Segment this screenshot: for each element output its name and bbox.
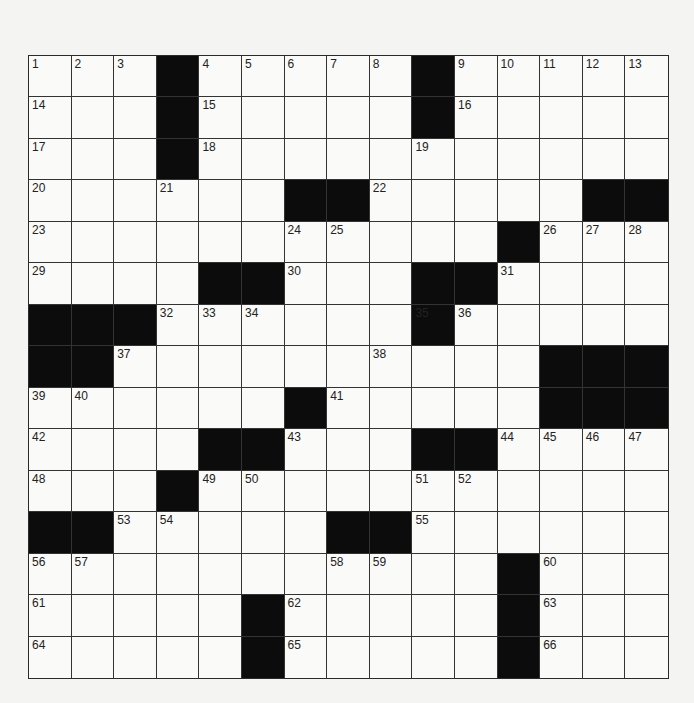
grid-cell[interactable]: 21 (157, 180, 200, 221)
grid-cell[interactable]: 52 (455, 471, 498, 512)
grid-cell[interactable] (72, 429, 115, 470)
grid-cell[interactable] (114, 471, 157, 512)
grid-cell[interactable] (455, 637, 498, 678)
grid-cell[interactable]: 24 (285, 222, 328, 263)
grid-cell[interactable]: 11 (540, 56, 583, 97)
grid-cell[interactable] (114, 429, 157, 470)
grid-cell[interactable] (199, 346, 242, 387)
grid-cell[interactable] (455, 512, 498, 553)
grid-cell[interactable] (285, 346, 328, 387)
grid-cell[interactable]: 30 (285, 263, 328, 304)
grid-cell[interactable] (285, 97, 328, 138)
grid-cell[interactable] (412, 222, 455, 263)
grid-cell[interactable] (242, 388, 285, 429)
grid-cell[interactable] (370, 637, 413, 678)
grid-cell[interactable] (72, 222, 115, 263)
grid-cell[interactable]: 19 (412, 139, 455, 180)
grid-cell[interactable]: 31 (498, 263, 541, 304)
grid-cell[interactable] (370, 595, 413, 636)
grid-cell[interactable]: 55 (412, 512, 455, 553)
grid-cell[interactable] (455, 180, 498, 221)
grid-cell[interactable]: 66 (540, 637, 583, 678)
grid-cell[interactable]: 39 (29, 388, 72, 429)
grid-cell[interactable] (114, 222, 157, 263)
grid-cell[interactable] (157, 263, 200, 304)
grid-cell[interactable] (242, 97, 285, 138)
grid-cell[interactable] (157, 554, 200, 595)
grid-cell[interactable]: 5 (242, 56, 285, 97)
grid-cell[interactable] (242, 554, 285, 595)
grid-cell[interactable] (72, 139, 115, 180)
grid-cell[interactable] (583, 595, 626, 636)
grid-cell[interactable] (625, 595, 668, 636)
grid-cell[interactable] (625, 263, 668, 304)
grid-cell[interactable]: 23 (29, 222, 72, 263)
grid-cell[interactable] (498, 388, 541, 429)
grid-cell[interactable] (455, 139, 498, 180)
grid-cell[interactable] (199, 637, 242, 678)
grid-cell[interactable] (327, 263, 370, 304)
grid-cell[interactable] (540, 97, 583, 138)
grid-cell[interactable] (625, 637, 668, 678)
grid-cell[interactable] (157, 346, 200, 387)
grid-cell[interactable]: 9 (455, 56, 498, 97)
grid-cell[interactable] (412, 595, 455, 636)
grid-cell[interactable] (498, 97, 541, 138)
grid-cell[interactable]: 25 (327, 222, 370, 263)
grid-cell[interactable]: 46 (583, 429, 626, 470)
grid-cell[interactable] (72, 97, 115, 138)
grid-cell[interactable] (370, 263, 413, 304)
grid-cell[interactable] (583, 139, 626, 180)
grid-cell[interactable] (114, 637, 157, 678)
grid-cell[interactable]: 36 (455, 305, 498, 346)
grid-cell[interactable]: 57 (72, 554, 115, 595)
grid-cell[interactable]: 6 (285, 56, 328, 97)
grid-cell[interactable] (583, 471, 626, 512)
grid-cell[interactable] (114, 388, 157, 429)
grid-cell[interactable] (625, 97, 668, 138)
grid-cell[interactable] (540, 512, 583, 553)
grid-cell[interactable] (540, 471, 583, 512)
grid-cell[interactable]: 22 (370, 180, 413, 221)
grid-cell[interactable]: 7 (327, 56, 370, 97)
grid-cell[interactable] (157, 388, 200, 429)
grid-cell[interactable]: 43 (285, 429, 328, 470)
grid-cell[interactable] (540, 305, 583, 346)
grid-cell[interactable]: 13 (625, 56, 668, 97)
grid-cell[interactable] (72, 471, 115, 512)
grid-cell[interactable] (327, 595, 370, 636)
grid-cell[interactable]: 18 (199, 139, 242, 180)
grid-cell[interactable]: 50 (242, 471, 285, 512)
grid-cell[interactable]: 26 (540, 222, 583, 263)
grid-cell[interactable]: 60 (540, 554, 583, 595)
grid-cell[interactable]: 64 (29, 637, 72, 678)
grid-cell[interactable] (583, 305, 626, 346)
grid-cell[interactable]: 49 (199, 471, 242, 512)
grid-cell[interactable]: 3 (114, 56, 157, 97)
grid-cell[interactable] (455, 595, 498, 636)
grid-cell[interactable] (540, 180, 583, 221)
grid-cell[interactable] (583, 263, 626, 304)
grid-cell[interactable] (199, 388, 242, 429)
grid-cell[interactable]: 1 (29, 56, 72, 97)
grid-cell[interactable] (199, 222, 242, 263)
grid-cell[interactable] (583, 97, 626, 138)
grid-cell[interactable]: 10 (498, 56, 541, 97)
grid-cell[interactable] (157, 595, 200, 636)
grid-cell[interactable]: 38 (370, 346, 413, 387)
grid-cell[interactable] (540, 139, 583, 180)
grid-cell[interactable] (498, 180, 541, 221)
grid-cell[interactable] (285, 305, 328, 346)
grid-cell[interactable] (583, 554, 626, 595)
grid-cell[interactable] (199, 180, 242, 221)
grid-cell[interactable] (455, 346, 498, 387)
grid-cell[interactable] (242, 139, 285, 180)
grid-cell[interactable] (455, 222, 498, 263)
grid-cell[interactable] (412, 554, 455, 595)
grid-cell[interactable]: 54 (157, 512, 200, 553)
grid-cell[interactable]: 59 (370, 554, 413, 595)
grid-cell[interactable]: 8 (370, 56, 413, 97)
grid-cell[interactable] (455, 554, 498, 595)
grid-cell[interactable]: 42 (29, 429, 72, 470)
grid-cell[interactable]: 56 (29, 554, 72, 595)
